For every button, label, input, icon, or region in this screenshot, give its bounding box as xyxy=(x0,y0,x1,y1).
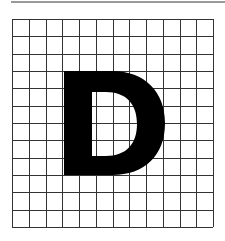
grid-lines xyxy=(12,19,214,228)
letter-grid-figure: D xyxy=(0,0,225,241)
